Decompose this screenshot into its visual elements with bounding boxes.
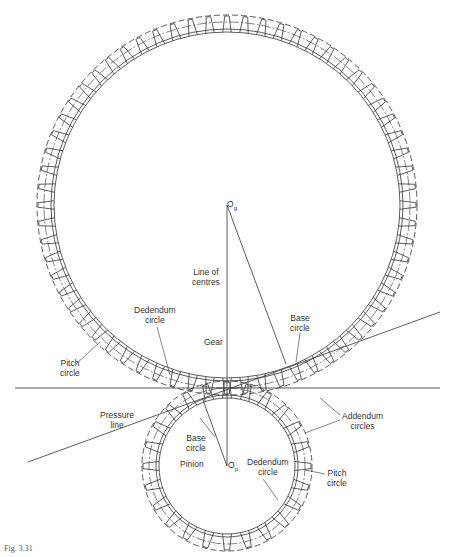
pinion-base-circle-label: Base circle (186, 433, 206, 453)
gear-base-radius (227, 205, 286, 364)
gear-pitch-circle-label: Pitch circle (60, 358, 80, 378)
pinion-pitch-leader (305, 470, 325, 474)
gear-label: Gear (204, 337, 223, 347)
addendum-leader-gear (320, 398, 340, 415)
addendum-leader-pinion (305, 420, 340, 433)
pinion-base-radius (203, 400, 227, 466)
gear-base-leader (296, 333, 300, 362)
pinion-dedendum-leader (263, 479, 278, 500)
pinion-label: Pinion (180, 459, 204, 469)
addendum-circles-label: Addendum circles (342, 411, 383, 431)
figure-caption: Fig. 3.31 (4, 544, 33, 553)
gear-centre-label: Og (227, 199, 237, 213)
construction-lines (15, 205, 440, 500)
pinion-pitch-circle-label: Pitch circle (327, 468, 347, 488)
gear-mesh-diagram (0, 0, 453, 557)
line-of-centres-label: Line of centres (192, 267, 220, 287)
pinion-dedendum-circle-label: Dedendum circle (247, 457, 289, 477)
pressure-line (28, 312, 440, 462)
gear-base-circle-label: Base circle (290, 313, 310, 333)
pressure-line-label: Pressure line (100, 410, 134, 430)
gear-dedendum-circle-label: Dedendum circle (134, 305, 176, 325)
pinion-centre-label: Op (228, 460, 238, 474)
